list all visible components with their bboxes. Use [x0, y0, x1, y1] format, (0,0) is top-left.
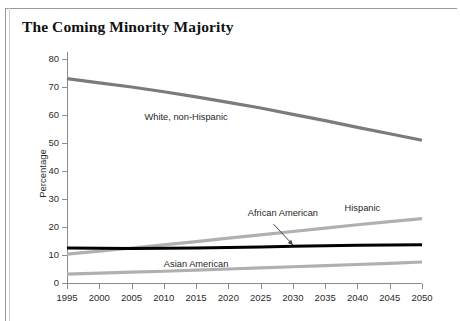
- series-label: African American: [248, 208, 318, 218]
- series-lines: [0, 0, 460, 321]
- series-label: Asian American: [164, 259, 229, 269]
- series-line: [67, 262, 422, 274]
- series-label: Hispanic: [345, 203, 381, 213]
- figure-panel: The Coming Minority Majority Percentage …: [0, 0, 460, 321]
- series-line: [67, 245, 422, 249]
- series-label: White, non-Hispanic: [144, 112, 227, 122]
- series-line: [67, 79, 422, 141]
- chart-plot-area: Percentage 01020304050607080 19952000200…: [0, 0, 460, 321]
